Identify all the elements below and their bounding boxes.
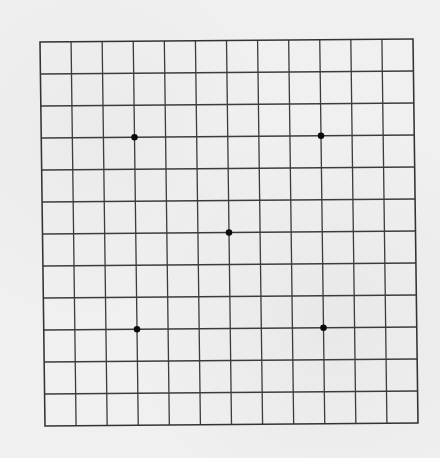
board-intersection[interactable] [88, 185, 119, 217]
board-intersection[interactable] [151, 217, 182, 249]
board-intersection[interactable] [244, 216, 275, 248]
board-intersection[interactable] [398, 87, 429, 119]
board-intersection[interactable] [397, 23, 428, 55]
go-board[interactable] [0, 0, 440, 458]
board-intersection[interactable] [119, 121, 150, 153]
board-intersection[interactable] [246, 312, 277, 344]
board-intersection[interactable] [304, 24, 335, 56]
board-intersection[interactable] [367, 119, 398, 151]
board-intersection[interactable] [336, 119, 367, 151]
board-intersection[interactable] [180, 25, 211, 57]
board-intersection[interactable] [26, 122, 57, 154]
board-intersection[interactable] [58, 250, 89, 282]
board-intersection[interactable] [243, 120, 274, 152]
board-intersection[interactable] [182, 185, 213, 217]
board-intersection[interactable] [335, 23, 366, 55]
board-intersection[interactable] [369, 215, 400, 247]
board-intersection[interactable] [337, 183, 368, 215]
board-intersection[interactable] [400, 215, 431, 247]
board-intersection[interactable] [118, 57, 149, 89]
board-intersection[interactable] [120, 217, 151, 249]
board-intersection[interactable] [214, 248, 245, 280]
board-intersection[interactable] [371, 375, 402, 407]
board-intersection[interactable] [60, 346, 91, 378]
board-intersection[interactable] [276, 248, 307, 280]
board-intersection[interactable] [88, 153, 119, 185]
board-intersection[interactable] [120, 249, 151, 281]
board-intersection[interactable] [335, 55, 366, 87]
board-intersection[interactable] [401, 279, 432, 311]
board-intersection[interactable] [368, 183, 399, 215]
board-intersection[interactable] [338, 215, 369, 247]
board-intersection[interactable] [90, 281, 121, 313]
board-intersection[interactable] [336, 87, 367, 119]
board-intersection[interactable] [89, 217, 120, 249]
board-intersection[interactable] [181, 121, 212, 153]
board-intersection[interactable] [306, 184, 337, 216]
board-intersection[interactable] [28, 346, 59, 378]
board-intersection[interactable] [91, 409, 122, 441]
board-intersection[interactable] [402, 407, 433, 439]
board-intersection[interactable] [153, 377, 184, 409]
board-intersection[interactable] [274, 120, 305, 152]
board-intersection[interactable] [183, 313, 214, 345]
board-intersection[interactable] [245, 248, 276, 280]
board-intersection[interactable] [153, 345, 184, 377]
board-intersection[interactable] [150, 121, 181, 153]
board-intersection[interactable] [275, 216, 306, 248]
board-intersection[interactable] [57, 154, 88, 186]
board-intersection[interactable] [369, 247, 400, 279]
board-intersection[interactable] [184, 377, 215, 409]
board-intersection[interactable] [149, 89, 180, 121]
board-intersection[interactable] [305, 88, 336, 120]
board-intersection[interactable] [27, 250, 58, 282]
board-intersection[interactable] [277, 312, 308, 344]
board-intersection[interactable] [120, 185, 151, 217]
board-intersection[interactable] [366, 23, 397, 55]
board-intersection[interactable] [367, 87, 398, 119]
board-intersection[interactable] [306, 216, 337, 248]
board-intersection[interactable] [215, 376, 246, 408]
board-intersection[interactable] [212, 88, 243, 120]
board-intersection[interactable] [242, 24, 273, 56]
board-intersection[interactable] [246, 344, 277, 376]
board-intersection[interactable] [340, 407, 371, 439]
board-intersection[interactable] [339, 343, 370, 375]
board-intersection[interactable] [399, 151, 430, 183]
board-intersection[interactable] [56, 90, 87, 122]
board-intersection[interactable] [308, 344, 339, 376]
board-intersection[interactable] [29, 378, 60, 410]
board-intersection[interactable] [277, 376, 308, 408]
board-intersection[interactable] [185, 409, 216, 441]
board-intersection[interactable] [59, 314, 90, 346]
board-intersection[interactable] [275, 184, 306, 216]
board-intersection[interactable] [370, 311, 401, 343]
board-intersection[interactable] [151, 185, 182, 217]
board-intersection[interactable] [398, 55, 429, 87]
board-intersection[interactable] [121, 313, 152, 345]
board-intersection[interactable] [86, 25, 117, 57]
board-intersection[interactable] [211, 56, 242, 88]
board-intersection[interactable] [181, 153, 212, 185]
board-intersection[interactable] [87, 57, 118, 89]
board-intersection[interactable] [180, 57, 211, 89]
board-intersection[interactable] [28, 282, 59, 314]
board-intersection[interactable] [338, 279, 369, 311]
board-intersection[interactable] [121, 281, 152, 313]
board-intersection[interactable] [371, 407, 402, 439]
board-intersection[interactable] [122, 377, 153, 409]
board-intersection[interactable] [91, 345, 122, 377]
board-intersection[interactable] [27, 218, 58, 250]
board-intersection[interactable] [368, 151, 399, 183]
board-intersection[interactable] [214, 312, 245, 344]
board-intersection[interactable] [244, 184, 275, 216]
board-intersection[interactable] [309, 376, 340, 408]
board-intersection[interactable] [305, 120, 336, 152]
board-intersection[interactable] [60, 410, 91, 442]
board-intersection[interactable] [307, 280, 338, 312]
board-intersection[interactable] [213, 184, 244, 216]
board-intersection[interactable] [25, 90, 56, 122]
board-intersection[interactable] [242, 56, 273, 88]
board-intersection[interactable] [90, 313, 121, 345]
board-intersection[interactable] [180, 89, 211, 121]
